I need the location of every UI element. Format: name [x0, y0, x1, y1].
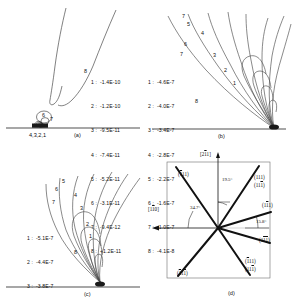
panel-d-angle-34-7: 34.7° — [190, 205, 201, 210]
panel-a-axis-label: 4,3,2,1 — [29, 132, 46, 138]
contour-label-b-7b: 7 — [180, 51, 183, 57]
panel-d-caption: (d) — [228, 290, 235, 296]
panel-b-caption: (b) — [218, 133, 225, 139]
legend-c-row-2: 2 : -4.4E-7 — [27, 258, 53, 266]
panel-d-label-upper-right-b: (111) — [254, 182, 265, 188]
contour-b-8 — [168, 16, 274, 128]
contour-label-a-7: 7 — [50, 116, 53, 122]
contour-label-c-4: 4 — [74, 192, 77, 198]
axis-horizontal-arrowhead — [152, 226, 159, 231]
legend-b-row-3: 3 : -3.4E-7 — [148, 126, 174, 134]
contour-label-c-3: 3 — [80, 205, 83, 211]
panel-d-label-lower-right-a: (111) — [245, 258, 256, 264]
contour-label-b-4: 4 — [201, 30, 204, 36]
contour-a-left — [50, 8, 66, 105]
slip-trace-upper-right — [218, 166, 259, 228]
panel-c-caption: (c) — [84, 291, 91, 297]
panel-c-plot: 5 6 7 4 3 2 1 8 — [0, 150, 146, 303]
panel-d-angle-15-8: 15.8° — [256, 219, 267, 224]
contour-label-c-5: 5 — [62, 178, 65, 184]
panel-d-diagram — [146, 150, 292, 303]
slip-trace-lower-left — [178, 228, 218, 276]
panel-d-axis-left-label: [110] — [148, 206, 159, 212]
contour-b-6 — [208, 13, 274, 128]
contour-b-2b — [269, 16, 284, 128]
panel-d-label-right-lower: (111) — [259, 237, 270, 243]
panel-d-label-lower-left: (111) — [177, 270, 188, 276]
legend-b-row-2: 2 : -4.0E-7 — [148, 102, 174, 110]
legend-b-row-1: 1 : -4.6E-7 — [148, 78, 174, 86]
legend-c-row-1: 1 : -5.1E-7 — [27, 234, 53, 242]
panel-a-plot: 8 6 7 — [0, 0, 146, 152]
contour-c-4r — [83, 174, 100, 282]
axis-vertical-arrowhead — [216, 152, 220, 158]
panel-a: 8 6 7 — [0, 0, 146, 152]
legend-a-row-1: 1 : -1.4E-10 — [91, 78, 121, 86]
panel-a-caption: (a) — [74, 132, 81, 138]
contour-label-b-5: 5 — [187, 21, 190, 27]
contour-c-6 — [59, 178, 100, 282]
contour-label-b-7: 7 — [182, 13, 185, 19]
arc-19-5 — [218, 202, 227, 205]
contour-label-b-1: 1 — [233, 80, 236, 86]
contour-label-a-6: 6 — [42, 112, 45, 118]
panel-d-label-upper-left: (111) — [178, 171, 189, 177]
contour-label-c-2: 2 — [86, 221, 89, 227]
legend-c-row-3: 3 : -3.8E-7 — [27, 282, 53, 290]
panel-c-convergence — [95, 281, 105, 286]
contour-label-c-7: 7 — [52, 199, 55, 205]
legend-panel-c: 1 : -5.1E-7 2 : -4.4E-7 3 : -3.8E-7 4 : … — [27, 218, 53, 303]
contour-label-b-2: 2 — [224, 67, 227, 73]
legend-a-row-2: 2 : -1.2E-10 — [91, 102, 121, 110]
figure-panel-grid: 8 6 7 1 : -1.4E-10 2 : -1.2E-10 3 : -9.5… — [0, 0, 292, 303]
contour-label-a-8: 8 — [84, 68, 87, 74]
panel-d-label-lower-right-b: (111) — [245, 266, 256, 272]
contour-label-b-3: 3 — [213, 52, 216, 58]
contour-label-c-8: 8 — [74, 249, 77, 255]
panel-b-convergence — [269, 124, 279, 129]
panel-d-label-upper-right-a: (111) — [254, 174, 265, 180]
contour-label-b-8: 8 — [195, 98, 198, 104]
contour-b-1b — [272, 24, 291, 128]
panel-c: 5 6 7 4 3 2 1 8 — [0, 150, 146, 303]
contour-label-c-6: 6 — [55, 186, 58, 192]
contour-c-1r — [100, 178, 140, 282]
contour-label-b-6: 6 — [184, 41, 187, 47]
panel-a-base-block — [32, 124, 48, 128]
panel-d-angle-19-5: 19.5° — [222, 177, 233, 182]
panel-d-label-right-upper: (111) — [262, 202, 273, 208]
contour-label-c-1: 1 — [89, 233, 92, 239]
arc-34-7 — [188, 211, 193, 228]
panel-d-axis-top-label: [211] — [200, 151, 211, 157]
panel-d — [146, 150, 292, 303]
legend-a-row-3: 3 : -9.5E-11 — [91, 126, 121, 134]
